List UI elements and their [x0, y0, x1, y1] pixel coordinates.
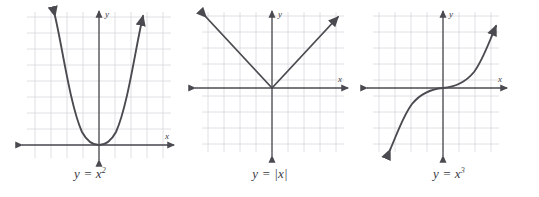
- x-axis-label-absolute-value: x: [337, 74, 342, 84]
- plot-area-absolute-value: x y: [180, 0, 360, 168]
- x-axis-label-parabola: x: [164, 131, 169, 141]
- curve-absolute-value: [206, 17, 272, 88]
- caption-text-parabola: y = x: [74, 166, 102, 181]
- plot-area-cubic: x y: [359, 0, 539, 168]
- y-axis-label-parabola: y: [104, 9, 109, 19]
- curve-absolute-value-right: [272, 17, 338, 88]
- caption-text-cubic: y = x: [433, 166, 461, 181]
- y-axis-label-cubic: y: [448, 9, 453, 19]
- graph-panel-absolute-value: x y y = |x|: [180, 0, 360, 197]
- graph-panel-parabola: x y y = x2: [0, 0, 180, 197]
- caption-parabola: y = x2: [0, 166, 180, 182]
- caption-exponent-cubic: 3: [461, 166, 465, 175]
- caption-absolute-value: y = |x|: [180, 166, 360, 182]
- x-axis-label-cubic: x: [497, 74, 502, 84]
- caption-cubic: y = x3: [359, 166, 539, 182]
- caption-text-absolute-value: y = |x|: [252, 166, 287, 181]
- y-axis-label-absolute-value: y: [277, 9, 282, 19]
- graph-panel-cubic: x y y = x3: [359, 0, 539, 197]
- grid-vertical-lines-cubic: [379, 12, 491, 152]
- grid-horizontal-lines-cubic: [373, 16, 499, 144]
- caption-exponent-parabola: 2: [102, 166, 106, 175]
- plot-area-parabola: x y: [0, 0, 180, 168]
- parent-functions-figure: x y y = x2: [0, 0, 539, 197]
